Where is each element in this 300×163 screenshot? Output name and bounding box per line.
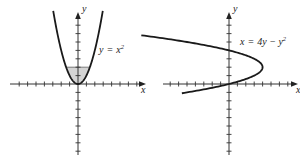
y-axis-label: y: [232, 3, 238, 14]
y-axis-arrow-icon: [75, 12, 81, 19]
x-axis-label: x: [295, 84, 300, 95]
y-axis-arrow-icon: [226, 12, 232, 19]
y-axis-label: y: [81, 3, 87, 14]
right-graph: y x x=4y − y2: [141, 3, 300, 155]
equation-label: x=4y − y2: [239, 35, 287, 47]
equation-label: y=x2: [98, 43, 125, 55]
figure-canvas: y x y=x2 y x x=4y − y2: [0, 0, 300, 163]
left-graph: y x y=x2: [10, 3, 146, 155]
x-axis-label: x: [140, 84, 146, 95]
